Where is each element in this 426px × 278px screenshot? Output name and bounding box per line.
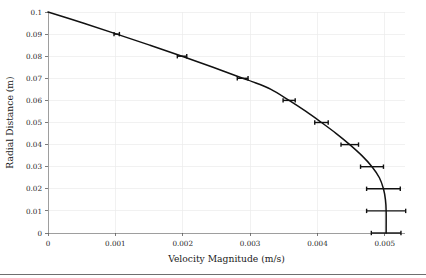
x-tick-label: 0.005 — [375, 239, 396, 248]
y-tick-label: 0.01 — [26, 207, 42, 216]
x-tick-label: 0.003 — [240, 239, 261, 248]
y-tick-label: 0 — [37, 229, 42, 238]
x-axis-tickmarks — [48, 233, 385, 236]
y-tick-label: 0.09 — [26, 30, 42, 39]
x-tick-label: 0.002 — [172, 239, 193, 248]
figure-container: 00.0010.0020.0030.0040.005 00.010.020.03… — [0, 0, 426, 278]
y-tick-label: 0.04 — [26, 140, 42, 149]
x-axis-tick-labels: 00.0010.0020.0030.0040.005 — [46, 239, 396, 248]
y-axis-title: Radial Distance (m) — [4, 76, 15, 168]
x-tick-label: 0 — [46, 239, 51, 248]
y-tick-label: 0.02 — [26, 184, 42, 193]
y-tick-label: 0.06 — [26, 96, 42, 105]
x-tick-label: 0.004 — [307, 239, 328, 248]
y-tick-label: 0.08 — [26, 52, 42, 61]
footer-divider — [0, 274, 426, 275]
y-axis-tick-labels: 00.010.020.030.040.050.060.070.080.090.1 — [26, 8, 42, 238]
y-tick-label: 0.1 — [31, 8, 42, 17]
velocity-profile-chart: 00.0010.0020.0030.0040.005 00.010.020.03… — [0, 0, 426, 278]
y-tick-label: 0.07 — [26, 74, 42, 83]
x-axis-title: Velocity Magnitude (m/s) — [167, 253, 285, 264]
y-axis-tickmarks — [45, 12, 48, 233]
x-tick-label: 0.001 — [105, 239, 126, 248]
y-tick-label: 0.03 — [26, 162, 42, 171]
y-tick-label: 0.05 — [26, 118, 42, 127]
